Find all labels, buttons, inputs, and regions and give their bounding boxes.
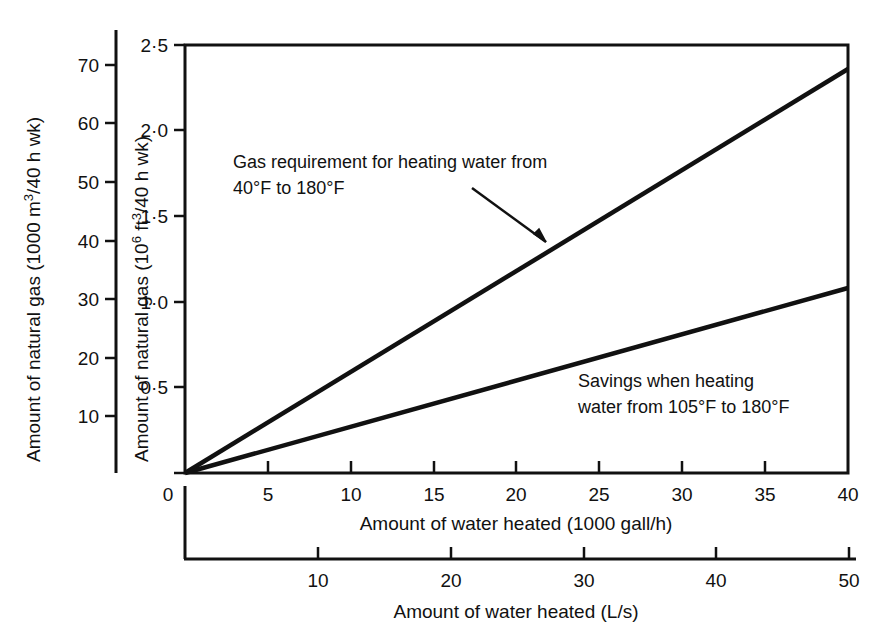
- x-primary-tick-label: 25: [588, 484, 609, 505]
- y-outer-title-suffix: /40 h wk): [23, 117, 44, 194]
- x-axis-secondary-title: Amount of water heated (L/s): [393, 601, 638, 622]
- annotation-savings-line2: water from 105°F to 180°F: [577, 397, 789, 417]
- annotation-gas-requirement-line2: 40°F to 180°F: [233, 178, 344, 198]
- y-outer-tick-label: 70: [78, 55, 99, 76]
- y-outer-tick-label: 50: [78, 172, 99, 193]
- x-secondary-tick-label: 10: [307, 570, 328, 591]
- y-outer-title-superscript: 3: [21, 194, 36, 201]
- y-inner-title-superscript-2: 3: [129, 213, 144, 220]
- y-inner-title-suffix: /40 h wk): [131, 136, 152, 213]
- x-primary-tick-label: 35: [754, 484, 775, 505]
- chart-figure: 2·5 2·0 1·5 1·0 0·5 0 70 60 50 40 30 20: [0, 0, 888, 640]
- y-outer-tick-label: 60: [78, 113, 99, 134]
- y-outer-tick-label: 10: [78, 406, 99, 427]
- x-axis-primary-title: Amount of water heated (1000 gall/h): [360, 513, 673, 534]
- x-secondary-tick-label: 50: [838, 570, 859, 591]
- y-inner-title-prefix: Amount of natural gas (10: [131, 243, 152, 462]
- x-primary-tick-label: 40: [837, 484, 858, 505]
- annotation-savings-line1: Savings when heating: [578, 371, 754, 391]
- x-primary-tick-label: 5: [263, 484, 274, 505]
- y-axis-outer-title: Amount of natural gas (1000 m3/40 h wk): [21, 117, 44, 462]
- x-secondary-tick-label: 30: [573, 570, 594, 591]
- y-inner-tick-label: 2·5: [141, 35, 168, 56]
- svg-text:Amount of natural gas (1000 m3: Amount of natural gas (1000 m3/40 h wk): [21, 117, 44, 462]
- x-primary-tick-label: 20: [505, 484, 526, 505]
- y-inner-tick-label-zero: 0: [163, 484, 174, 505]
- y-outer-title-prefix: Amount of natural gas (1000 m: [23, 201, 44, 462]
- x-primary-tick-label: 30: [671, 484, 692, 505]
- y-outer-tick-label: 40: [78, 231, 99, 252]
- y-inner-title-superscript-1: 6: [129, 236, 144, 243]
- chart-svg: 2·5 2·0 1·5 1·0 0·5 0 70 60 50 40 30 20: [0, 0, 888, 640]
- x-secondary-tick-label: 40: [705, 570, 726, 591]
- y-outer-tick-label: 30: [78, 289, 99, 310]
- annotation-gas-requirement-line1: Gas requirement for heating water from: [233, 152, 547, 172]
- svg-text:Amount of natural gas (106 ft3: Amount of natural gas (106 ft3/40 h wk): [129, 136, 152, 462]
- x-primary-tick-label: 10: [340, 484, 361, 505]
- y-axis-inner-title: Amount of natural gas (106 ft3/40 h wk): [129, 136, 152, 462]
- x-primary-tick-label: 15: [423, 484, 444, 505]
- x-secondary-tick-label: 20: [440, 570, 461, 591]
- y-outer-tick-label: 20: [78, 348, 99, 369]
- y-inner-title-mid: ft: [131, 220, 152, 237]
